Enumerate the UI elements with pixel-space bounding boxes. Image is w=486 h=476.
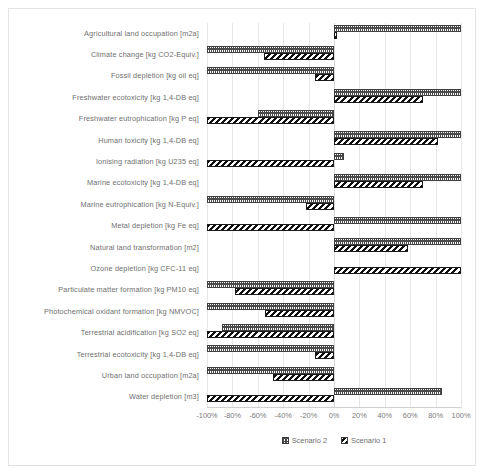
x-tick-label: -100% xyxy=(196,411,217,420)
bar-scenario-1[interactable] xyxy=(334,96,423,103)
category-label: Photochemical oxidant formation [kg NMVO… xyxy=(13,308,199,315)
bar-scenario-1[interactable] xyxy=(235,288,334,295)
x-tick-label: -80% xyxy=(224,411,241,420)
x-tick-label: 0% xyxy=(329,411,340,420)
bar-scenario-2[interactable] xyxy=(334,153,344,160)
bar-scenario-2[interactable] xyxy=(334,388,442,395)
category-label: Particulate matter formation [kg PM10 eq… xyxy=(13,286,199,293)
bar-scenario-1[interactable] xyxy=(207,117,334,124)
bar-row xyxy=(207,194,461,215)
bar-row xyxy=(207,322,461,343)
bar-scenario-1[interactable] xyxy=(334,138,438,145)
bar-scenario-1[interactable] xyxy=(334,32,337,39)
x-tick-label: -20% xyxy=(300,411,317,420)
bar-row xyxy=(207,109,461,130)
chart-frame: Agricultural land occupation [m2a]Climat… xyxy=(8,8,476,466)
category-label: Natural land transformation [m2] xyxy=(13,244,199,251)
category-label: Metal depletion [kg Fe eq] xyxy=(13,222,199,229)
bar-scenario-1[interactable] xyxy=(306,203,334,210)
legend-item-scenario-1[interactable]: Scenario 1 xyxy=(341,436,386,445)
category-label: Freshwater eutrophication [kg P eq] xyxy=(13,115,199,122)
bar-row xyxy=(207,258,461,279)
bar-scenario-2[interactable] xyxy=(207,345,334,352)
bar-row xyxy=(207,365,461,386)
bar-scenario-2[interactable] xyxy=(207,281,334,288)
category-label: Human toxicity [kg 1,4-DB eq] xyxy=(13,137,199,144)
bars-container xyxy=(207,23,461,408)
bar-scenario-2[interactable] xyxy=(222,324,334,331)
bar-scenario-1[interactable] xyxy=(334,245,408,252)
x-tick-label: 80% xyxy=(428,411,443,420)
x-axis-line xyxy=(207,407,461,408)
legend-swatch-hatch-icon xyxy=(341,437,348,444)
bar-row xyxy=(207,23,461,44)
category-label: Urban land occupation [m2a] xyxy=(13,372,199,379)
bar-row xyxy=(207,387,461,408)
x-tick-label: 40% xyxy=(377,411,392,420)
bar-scenario-1[interactable] xyxy=(334,181,423,188)
category-label: Freshwater ecotoxicity [kg 1,4-DB eq] xyxy=(13,94,199,101)
category-label: Climate change [kg CO2-Equiv.] xyxy=(13,51,199,58)
bar-scenario-2[interactable] xyxy=(207,303,334,310)
bar-row xyxy=(207,173,461,194)
bar-scenario-1[interactable] xyxy=(265,310,334,317)
category-label: Terrestrial acidification [kg SO2 eq] xyxy=(13,329,199,336)
bar-scenario-1[interactable] xyxy=(315,352,334,359)
bar-scenario-2[interactable] xyxy=(258,110,334,117)
bar-row xyxy=(207,130,461,151)
category-axis-labels: Agricultural land occupation [m2a]Climat… xyxy=(13,23,199,408)
category-label: Marine eutrophication [kg N-Equiv.] xyxy=(13,201,199,208)
bar-scenario-1[interactable] xyxy=(315,74,334,81)
bar-scenario-1[interactable] xyxy=(207,331,334,338)
bar-row xyxy=(207,301,461,322)
bar-scenario-2[interactable] xyxy=(207,196,334,203)
bar-row xyxy=(207,151,461,172)
bar-row xyxy=(207,87,461,108)
bar-scenario-2[interactable] xyxy=(207,67,334,74)
category-label: Ozone depletion [kg CFC-11 eq] xyxy=(13,265,199,272)
category-label: Marine ecotoxicity [kg 1,4-DB eq] xyxy=(13,179,199,186)
category-label: Fossil depletion [kg oil eq] xyxy=(13,72,199,79)
bar-scenario-1[interactable] xyxy=(273,374,334,381)
bar-row xyxy=(207,216,461,237)
legend-label-scenario-1: Scenario 1 xyxy=(351,436,386,445)
legend-item-scenario-2[interactable]: Scenario 2 xyxy=(282,436,327,445)
x-tick-label: 20% xyxy=(352,411,367,420)
x-tick-label: 60% xyxy=(403,411,418,420)
bar-scenario-2[interactable] xyxy=(334,89,461,96)
category-label: Ionising radiation [kg U235 eq] xyxy=(13,158,199,165)
bar-scenario-1[interactable] xyxy=(264,53,334,60)
bar-row xyxy=(207,66,461,87)
category-label: Agricultural land occupation [m2a] xyxy=(13,30,199,37)
x-tick-label: -60% xyxy=(249,411,266,420)
x-tick-label: -40% xyxy=(275,411,292,420)
bar-scenario-2[interactable] xyxy=(334,25,461,32)
chart-legend: Scenario 2 Scenario 1 xyxy=(207,433,461,447)
category-label: Water depletion [m3] xyxy=(13,393,199,400)
value-axis-ticks: -100%-80%-60%-40%-20%0%20%40%60%80%100% xyxy=(207,411,461,425)
gridline-100pct xyxy=(461,23,462,408)
bar-scenario-2[interactable] xyxy=(207,367,334,374)
bar-scenario-2[interactable] xyxy=(334,217,461,224)
bar-scenario-2[interactable] xyxy=(334,131,461,138)
bar-row xyxy=(207,237,461,258)
chart-plot-area: Agricultural land occupation [m2a]Climat… xyxy=(9,9,475,465)
legend-label-scenario-2: Scenario 2 xyxy=(292,436,327,445)
bar-scenario-2[interactable] xyxy=(207,46,334,53)
x-tick-label: 100% xyxy=(452,411,471,420)
category-label: Terrestrial ecotoxicity [kg 1,4-DB eq] xyxy=(13,351,199,358)
legend-swatch-dotted-icon xyxy=(282,437,289,444)
bar-row xyxy=(207,44,461,65)
bar-scenario-1[interactable] xyxy=(207,224,334,231)
bar-row xyxy=(207,344,461,365)
bar-scenario-1[interactable] xyxy=(207,160,334,167)
bar-scenario-1[interactable] xyxy=(207,395,334,402)
bar-scenario-1[interactable] xyxy=(334,267,461,274)
bar-scenario-2[interactable] xyxy=(334,238,461,245)
bar-scenario-2[interactable] xyxy=(334,174,461,181)
bar-row xyxy=(207,280,461,301)
